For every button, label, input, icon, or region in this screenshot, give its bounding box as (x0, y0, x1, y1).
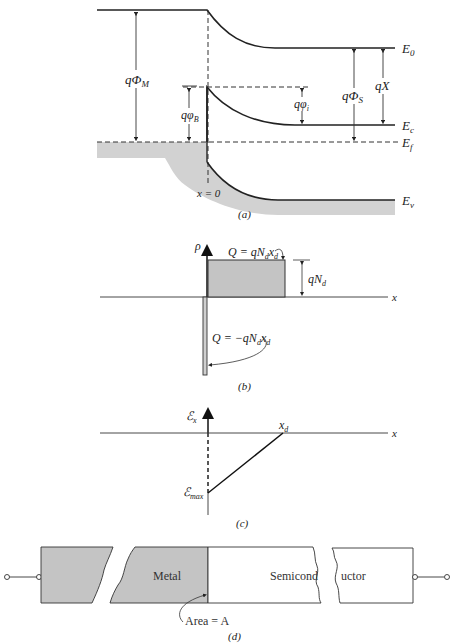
panel-b-charge-density: ρ x Q = qNdxd qNd Q = −qNdxd (b) (100, 239, 397, 393)
semiconductor-label-right: uctor (341, 569, 366, 583)
area-label: Area = A (185, 614, 229, 628)
semiconductor-label-left: Semicond (270, 569, 318, 583)
rho-label: ρ (194, 239, 201, 253)
Q-positive-label: Q = qNdxd (228, 245, 279, 261)
panel-b-caption: (b) (238, 380, 251, 393)
panel-a-band-diagram: qΦM qφB qφi qΦS qX E0 Ec Ef Ev x = 0 (a) (97, 10, 415, 221)
x-label-c: x (391, 427, 397, 439)
Q-negative-label: Q = −qNdxd (212, 331, 271, 347)
metal-semiconductor-junction-diagram: qΦM qφB qφi qΦS qX E0 Ec Ef Ev x = 0 (a)… (0, 0, 457, 643)
metal-left-segment (41, 547, 113, 603)
qX-label: qX (375, 78, 391, 93)
x-label-b: x (391, 291, 397, 303)
qNd-label: qNd (308, 272, 327, 288)
positive-charge-block (208, 260, 285, 297)
panel-d-device-structure: Metal Semicond uctor Area = A (d) (5, 547, 450, 643)
Ef-label: Ef (401, 135, 414, 152)
panel-a-caption: (a) (238, 208, 251, 221)
xd-label: xd (278, 418, 289, 434)
vacuum-level-E0 (97, 10, 395, 48)
negative-charge-sheet (203, 297, 207, 375)
E0-label: E0 (401, 41, 415, 58)
panel-d-caption: (d) (228, 630, 241, 643)
filled-states-shading (97, 142, 395, 215)
Emax-label: ℰmax (183, 485, 204, 501)
field-profile-line (208, 433, 283, 493)
panel-c-caption: (c) (236, 517, 249, 530)
Ex-label: ℰx (186, 409, 197, 425)
metal-label: Metal (153, 569, 182, 583)
Ev-label: Ev (401, 193, 414, 210)
x0-label: x = 0 (196, 187, 221, 199)
Ec-label: Ec (401, 118, 414, 135)
panel-c-electric-field: ℰx x xd ℰmax (c) (100, 409, 397, 530)
